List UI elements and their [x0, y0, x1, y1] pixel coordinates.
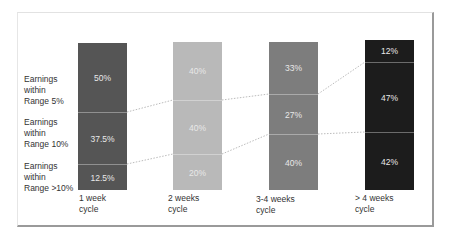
x-label-1-week: 1 week cycle	[79, 193, 106, 215]
bar-segment-range-5: 12%	[365, 40, 414, 62]
x-label-line: cycle	[168, 204, 199, 215]
bar-segment-range-over-10: 40%	[269, 134, 318, 190]
x-label-line: cycle	[79, 204, 106, 215]
bar-1-week: 50% 37.5% 12.5%	[78, 43, 127, 190]
x-label-line: 1 week	[79, 193, 106, 204]
bar-segment-range-10: 40%	[173, 100, 222, 154]
bar-segment-range-10: 27%	[269, 94, 318, 134]
bar-segment-range-over-10: 12.5%	[78, 164, 127, 190]
bar-segment-range-10: 37.5%	[78, 112, 127, 164]
x-label-line: 3-4 weeks	[256, 194, 295, 205]
x-label-line: > 4 weeks	[355, 193, 394, 204]
x-label-line: cycle	[256, 205, 295, 216]
bar-segment-range-5: 33%	[269, 42, 318, 94]
x-label-3-4-weeks: 3-4 weeks cycle	[256, 194, 295, 216]
bar-segment-range-5: 50%	[78, 43, 127, 112]
x-label-line: cycle	[355, 204, 394, 215]
x-label-2-weeks: 2 weeks cycle	[168, 193, 199, 215]
bar-segment-range-over-10: 42%	[365, 132, 414, 190]
bar-3-4-weeks: 33% 27% 40%	[269, 42, 318, 190]
bar-2-weeks: 40% 40% 20%	[173, 42, 222, 190]
bar-segment-range-5: 40%	[173, 42, 222, 100]
bar-segment-range-10: 47%	[365, 62, 414, 132]
x-label-over-4-weeks: > 4 weeks cycle	[355, 193, 394, 215]
bar-over-4-weeks: 12% 47% 42%	[365, 40, 414, 190]
x-label-line: 2 weeks	[168, 193, 199, 204]
bar-segment-range-over-10: 20%	[173, 154, 222, 190]
